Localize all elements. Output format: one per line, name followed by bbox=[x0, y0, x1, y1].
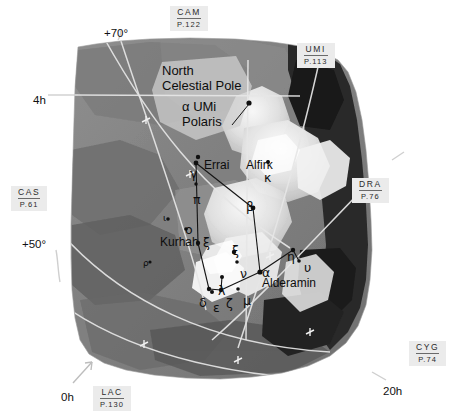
ra-0h-arrow bbox=[73, 362, 92, 383]
ref-cam-page: P.122 bbox=[177, 19, 201, 28]
star-delta bbox=[207, 287, 211, 291]
ra-4h: 4h bbox=[33, 94, 46, 106]
star-polaris bbox=[246, 100, 251, 105]
greek-upsilon: υ bbox=[304, 260, 311, 275]
greek-alpha: α bbox=[262, 265, 270, 280]
ref-cam[interactable]: CAMP.122 bbox=[170, 6, 208, 31]
greek-kappa: κ bbox=[264, 170, 271, 185]
greek-omicron: ο bbox=[185, 222, 193, 237]
star-epsilon bbox=[210, 290, 214, 294]
star-chart-page: +70°4h+50°0h20h CAMP.122UMIP.113DRAP.76C… bbox=[0, 0, 466, 418]
greek-epsilon: ε bbox=[213, 300, 220, 315]
greek-iota-small: ι bbox=[163, 213, 166, 223]
ref-cam-abbr: CAM bbox=[177, 8, 201, 19]
star-errai-dot bbox=[196, 155, 200, 159]
greek-xi: ξ bbox=[232, 243, 239, 258]
greek-pi: π bbox=[193, 192, 201, 207]
ra-0h: 0h bbox=[61, 391, 74, 403]
ref-dra[interactable]: DRAP.76 bbox=[352, 178, 389, 203]
ref-umi-abbr: UMI bbox=[304, 45, 328, 56]
pole-line-1: North bbox=[162, 63, 194, 78]
star-mu bbox=[236, 287, 240, 291]
greek-nu: ν bbox=[240, 266, 247, 281]
ref-lac-page: P.130 bbox=[100, 399, 124, 408]
ref-cas[interactable]: CASP.61 bbox=[11, 186, 47, 211]
greek-zeta: ζ bbox=[226, 296, 233, 311]
greek-rho-small: ρ bbox=[143, 258, 149, 268]
ref-lac[interactable]: LACP.130 bbox=[93, 386, 131, 411]
greek-beta: β bbox=[246, 199, 254, 214]
ref-umi-page: P.113 bbox=[304, 56, 328, 65]
pole-line-2: Celestial Pole bbox=[162, 78, 242, 93]
polaris-label: α UMi Polaris bbox=[182, 100, 222, 130]
chart-canvas bbox=[0, 0, 466, 418]
ref-lac-abbr: LAC bbox=[100, 388, 124, 399]
star-nu bbox=[235, 260, 239, 264]
ref-umi[interactable]: UMIP.113 bbox=[297, 43, 335, 68]
ref-dra-abbr: DRA bbox=[359, 180, 382, 191]
ref-cas-page: P.61 bbox=[18, 199, 40, 208]
ref-cyg-page: P.74 bbox=[416, 354, 439, 363]
polaris-name: Polaris bbox=[182, 114, 222, 129]
star-upsilon bbox=[297, 259, 301, 263]
greek-gamma: γ bbox=[190, 166, 197, 181]
star-pi bbox=[194, 182, 197, 185]
star-iota bbox=[166, 217, 170, 221]
ref-cyg-abbr: CYG bbox=[416, 343, 439, 354]
star-lambda bbox=[220, 275, 224, 279]
ra-20h: 20h bbox=[383, 385, 402, 397]
dec-plus-50: +50° bbox=[22, 238, 46, 250]
greek-delta: δ bbox=[199, 295, 207, 310]
greek-eta: η bbox=[287, 249, 295, 264]
ref-cyg[interactable]: CYGP.74 bbox=[409, 341, 446, 366]
ref-cas-abbr: CAS bbox=[18, 188, 40, 199]
greek-mu: μ bbox=[243, 293, 251, 308]
star-name-errai: Errai bbox=[204, 158, 229, 172]
greek-lambda: λ bbox=[218, 283, 225, 298]
polaris-designation: α UMi bbox=[182, 99, 216, 114]
north-celestial-pole-label: North Celestial Pole bbox=[162, 64, 242, 94]
dec-plus-70: +70° bbox=[104, 27, 128, 39]
star-gamma bbox=[194, 161, 199, 166]
star-name-kurhah: Kurhah bbox=[160, 235, 199, 249]
greek-xi-kurhah: ξ bbox=[203, 235, 210, 250]
ref-dra-page: P.76 bbox=[359, 191, 382, 200]
